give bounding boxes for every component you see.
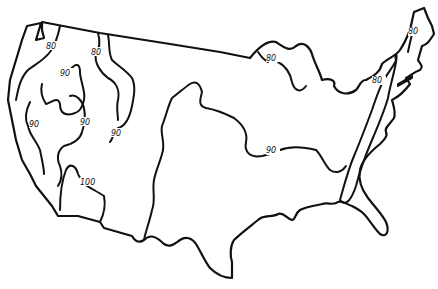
isotherm-100-southwest <box>60 166 105 222</box>
isotherm-90-central <box>144 82 346 240</box>
isotherm-label-90: 90 <box>80 118 90 127</box>
isotherm-label-90: 90 <box>266 146 276 155</box>
isotherm-label-80: 80 <box>46 42 56 51</box>
isotherm-label-90: 90 <box>60 69 70 78</box>
isotherm-label-90: 90 <box>111 129 121 138</box>
isotherm-80-rockies <box>96 33 119 120</box>
isotherm-label-80: 80 <box>91 48 101 57</box>
us-isotherm-map: 80 80 90 90 90 90 100 80 90 80 80 <box>0 0 438 289</box>
isotherm-label-80: 80 <box>266 54 276 63</box>
isotherm-label-80: 80 <box>408 27 418 36</box>
isotherm-label-90: 90 <box>29 120 39 129</box>
isotherm-label-80: 80 <box>372 76 382 85</box>
isotherm-label-100: 100 <box>80 178 95 187</box>
isotherm-90-rockies-east <box>108 35 134 142</box>
isotherm-80-appalachian <box>340 54 397 203</box>
isotherm-90-california <box>26 102 44 174</box>
